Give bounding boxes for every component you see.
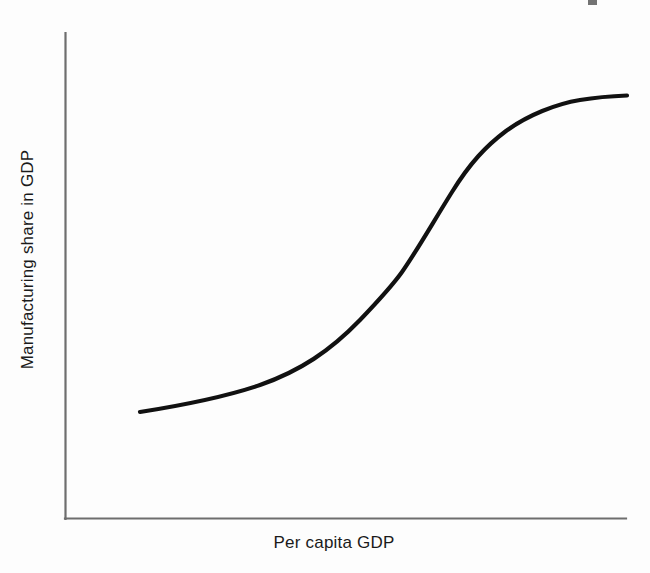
y-axis-label: Manufacturing share in GDP	[20, 150, 37, 370]
chart-background	[0, 0, 650, 573]
y-axis-label-container: Manufacturing share in GDP	[0, 0, 56, 519]
chart-canvas	[0, 0, 650, 573]
scan-artifact-mark	[588, 0, 597, 5]
figure-container: Manufacturing share in GDP Per capita GD…	[0, 0, 650, 573]
x-axis-label: Per capita GDP	[0, 534, 650, 551]
